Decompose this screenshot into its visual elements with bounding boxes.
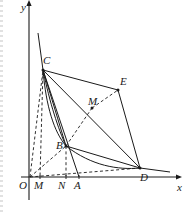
segment-C-E [43,70,118,90]
dash-C-M [40,70,43,177]
x-axis-arrow-icon [176,174,182,179]
label-N-axis: N [58,180,65,191]
y-axis-arrow-icon [26,0,31,6]
dash-O-C [30,70,43,177]
label-origin: O [19,180,27,191]
dash-O-D [30,168,140,177]
dash-B-M-E [66,108,92,146]
vertex-b [65,145,68,148]
label-C: C [43,55,50,66]
vertex-c [42,69,45,72]
label-D: D [140,172,148,183]
label-B: B [56,140,63,151]
label-M-mid: M [88,96,97,107]
label-x-axis: x [177,182,182,193]
label-M-axis: M [34,180,43,191]
geometry-figure: yxOMNACEMBD [0,0,191,212]
label-A-axis: A [74,180,81,191]
label-E: E [120,76,127,87]
vertex-e [117,89,120,92]
label-y-axis: y [21,2,26,13]
vertex-d [139,167,142,170]
